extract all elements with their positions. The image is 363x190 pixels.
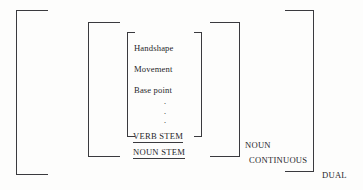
node-label-continuous: CONTINUOUS <box>249 155 307 165</box>
node-label-noun: NOUN <box>245 140 271 150</box>
node-label-dual: DUAL <box>322 170 347 180</box>
continuous-bracket-right <box>210 22 240 157</box>
feature-handshape: Handshape <box>134 38 204 59</box>
feature-matrix: Handshape Movement Base point <box>134 38 204 101</box>
node-label-noun-stem: NOUN STEM <box>133 147 185 159</box>
node-label-verb-stem: VERB STEM <box>133 131 183 143</box>
vertical-ellipsis: · · · <box>160 99 170 128</box>
dual-bracket-left <box>16 10 48 175</box>
feature-movement: Movement <box>134 59 204 80</box>
bracket-diagram: Handshape Movement Base point · · · VERB… <box>0 0 363 190</box>
feature-base-point: Base point <box>134 80 204 101</box>
dual-bracket-right <box>285 10 314 172</box>
ellipsis-dot-3: · <box>160 118 170 128</box>
continuous-bracket-left <box>88 22 120 157</box>
